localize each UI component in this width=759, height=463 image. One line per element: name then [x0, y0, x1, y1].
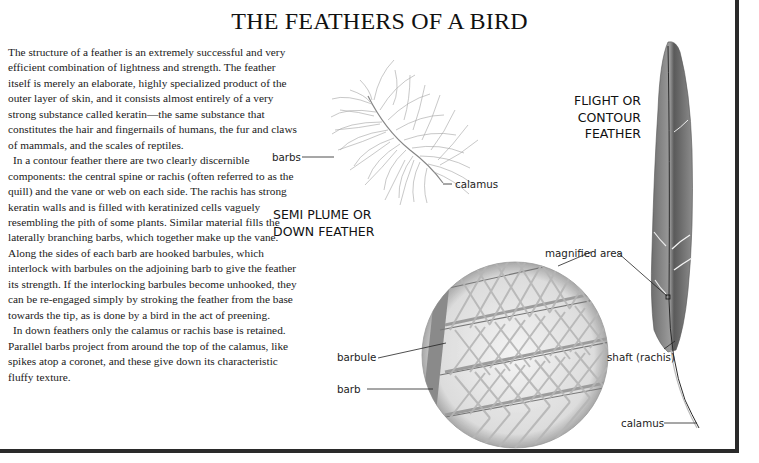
down-feather-heading-line-2: DOWN FEATHER [273, 224, 374, 241]
label-barbs: barbs [272, 151, 301, 163]
label-magnified-area: magnified area [545, 247, 623, 259]
frame-right-rule [735, 0, 739, 453]
page: THE FEATHERS OF A BIRD The structure of … [0, 0, 759, 463]
contour-feather-heading-line-2: CONTOUR [560, 110, 641, 127]
contour-feather-heading-line-1: FLIGHT OR [560, 93, 641, 110]
label-down-calamus: calamus [455, 178, 498, 190]
frame-bottom-rule [0, 449, 739, 453]
feather-illustrations [0, 0, 759, 463]
down-feather-heading: SEMI PLUME OR DOWN FEATHER [273, 207, 374, 240]
contour-feather-heading: FLIGHT OR CONTOUR FEATHER [560, 93, 641, 143]
contour-feather-drawing [651, 42, 699, 428]
label-barbule: barbule [337, 351, 376, 363]
magnified-view-drawing [417, 226, 630, 460]
down-feather-heading-line-1: SEMI PLUME OR [273, 207, 374, 224]
label-contour-calamus: calamus [621, 417, 664, 429]
contour-feather-heading-line-3: FEATHER [560, 126, 641, 143]
label-barb: barb [337, 383, 361, 395]
label-shaft-rachis: shaft (rachis) [607, 351, 675, 363]
